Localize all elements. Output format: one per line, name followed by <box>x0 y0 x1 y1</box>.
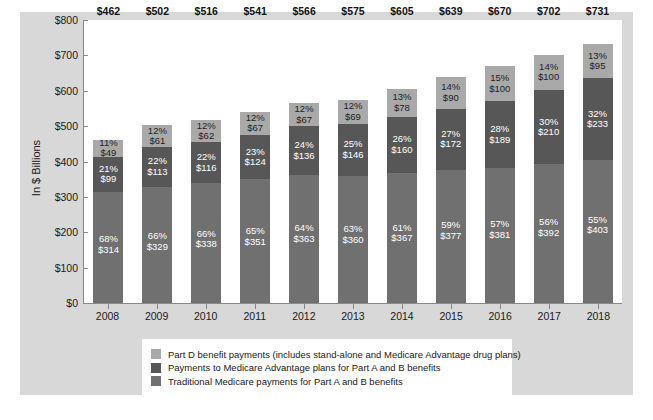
bar-segment-trad[interactable]: 64%$363 <box>289 175 319 303</box>
plot-area: $800$700$600$500$400$300$200$100$0 $4621… <box>83 20 622 304</box>
bar-segment-trad[interactable]: 66%$329 <box>142 187 172 303</box>
bar-group[interactable]: $73113%$9532%$23355%$403 <box>583 20 613 303</box>
segment-value-label: $160 <box>391 145 412 156</box>
segment-value-label: $116 <box>196 163 216 174</box>
x-axis-label: 2008 <box>93 310 123 330</box>
bar-segment-partd[interactable]: 14%$90 <box>436 77 466 109</box>
legend-item-ma[interactable]: Payments to Medicare Advantage plans for… <box>151 362 503 373</box>
y-axis-tick: $500 <box>55 120 84 132</box>
bar-segment-partd[interactable]: 15%$100 <box>485 66 515 101</box>
x-axis-tick <box>206 304 207 309</box>
bar-total-label: $605 <box>390 5 413 17</box>
segment-value-label: $377 <box>440 230 461 241</box>
segment-value-label: $62 <box>198 131 214 142</box>
bar-group[interactable]: $46211%$4921%$9968%$314 <box>93 20 123 303</box>
segment-value-label: $100 <box>538 72 559 83</box>
x-axis-label: 2012 <box>289 310 319 330</box>
segment-value-label: $233 <box>587 119 608 130</box>
bar-segment-ma[interactable]: 23%$124 <box>240 135 270 179</box>
bar-segment-trad[interactable]: 57%$381 <box>485 168 515 303</box>
x-axis-tick <box>304 304 305 309</box>
bar-segment-ma[interactable]: 30%$210 <box>534 90 564 164</box>
bar-segment-ma[interactable]: 27%$172 <box>436 109 466 170</box>
segment-value-label: $95 <box>590 61 606 72</box>
x-axis-label: 2009 <box>142 310 172 330</box>
bar-group[interactable]: $54112%$6723%$12465%$351 <box>240 20 270 303</box>
x-axis-tick <box>255 304 256 309</box>
bar-segment-partd[interactable]: 11%$49 <box>93 140 123 157</box>
bar-segment-partd[interactable]: 13%$78 <box>387 89 417 117</box>
bar-segment-ma[interactable]: 24%$136 <box>289 126 319 174</box>
segment-value-label: $189 <box>489 135 510 146</box>
segment-percent-label: 56% <box>539 216 558 227</box>
bar-segment-ma[interactable]: 22%$116 <box>191 142 221 183</box>
y-axis-tick: $600 <box>55 85 84 97</box>
bar-segment-partd[interactable]: 12%$67 <box>240 112 270 136</box>
x-axis-label: 2016 <box>485 310 515 330</box>
bar-segment-ma[interactable]: 28%$189 <box>485 101 515 168</box>
legend-item-partd[interactable]: Part D benefit payments (includes stand-… <box>151 349 503 360</box>
bar-total-label: $702 <box>537 5 560 17</box>
bar-segment-ma[interactable]: 26%$160 <box>387 117 417 174</box>
segment-value-label: $360 <box>342 234 363 245</box>
y-axis-tick: $700 <box>55 49 84 61</box>
bar-segment-trad[interactable]: 66%$338 <box>191 183 221 303</box>
bar-total-label: $462 <box>97 5 120 17</box>
bar-segment-trad[interactable]: 56%$392 <box>534 164 564 303</box>
bar-group[interactable]: $57512%$6925%$14663%$360 <box>338 20 368 303</box>
legend-label: Traditional Medicare payments for Part A… <box>168 376 403 387</box>
bar-segment-ma[interactable]: 22%$113 <box>142 147 172 187</box>
bar-segment-partd[interactable]: 12%$61 <box>142 125 172 147</box>
x-axis-tick <box>451 304 452 309</box>
segment-percent-label: 63% <box>343 223 362 234</box>
segment-value-label: $172 <box>440 139 461 150</box>
segment-value-label: $99 <box>101 174 117 185</box>
x-axis-label: 2017 <box>534 310 564 330</box>
bar-segment-trad[interactable]: 65%$351 <box>240 179 270 303</box>
bar-segment-ma[interactable]: 21%$99 <box>93 157 123 192</box>
segment-value-label: $69 <box>345 112 361 123</box>
bar-group[interactable]: $70214%$10030%$21056%$392 <box>534 20 564 303</box>
y-axis-tick: $200 <box>55 226 84 238</box>
x-axis-label: 2018 <box>583 310 613 330</box>
segment-percent-label: 66% <box>197 228 216 239</box>
segment-value-label: $338 <box>196 238 217 249</box>
chart-legend: Part D benefit payments (includes stand-… <box>142 339 512 397</box>
bar-segment-partd[interactable]: 13%$95 <box>583 44 613 78</box>
bar-segment-partd[interactable]: 12%$69 <box>338 100 368 124</box>
bar-segment-trad[interactable]: 61%$367 <box>387 173 417 303</box>
segment-value-label: $49 <box>101 148 117 157</box>
x-axis-tick <box>549 304 550 309</box>
bar-segment-trad[interactable]: 59%$377 <box>436 170 466 303</box>
bar-group[interactable]: $50212%$6122%$11366%$329 <box>142 20 172 303</box>
segment-percent-label: 59% <box>441 219 460 230</box>
segment-value-label: $392 <box>538 227 559 238</box>
bar-group[interactable]: $60513%$7826%$16061%$367 <box>387 20 417 303</box>
bar-segment-trad[interactable]: 55%$403 <box>583 160 613 303</box>
segment-value-label: $113 <box>147 167 167 178</box>
x-axis-label: 2010 <box>191 310 221 330</box>
x-axis-label: 2011 <box>240 310 270 330</box>
bar-group[interactable]: $56612%$6724%$13664%$363 <box>289 20 319 303</box>
segment-percent-label: 57% <box>490 218 509 229</box>
segment-value-label: $363 <box>294 233 315 244</box>
segment-value-label: $146 <box>342 150 363 161</box>
bar-segment-ma[interactable]: 25%$146 <box>338 124 368 176</box>
x-axis-tick <box>353 304 354 309</box>
bar-group[interactable]: $51612%$6222%$11666%$338 <box>191 20 221 303</box>
bar-segment-partd[interactable]: 12%$62 <box>191 120 221 142</box>
bar-segment-trad[interactable]: 68%$314 <box>93 192 123 303</box>
bar-segment-ma[interactable]: 32%$233 <box>583 78 613 160</box>
bar-segment-partd[interactable]: 12%$67 <box>289 103 319 127</box>
bar-group[interactable]: $67015%$10028%$18957%$381 <box>485 20 515 303</box>
segment-value-label: $100 <box>489 84 510 95</box>
bar-group[interactable]: $63914%$9027%$17259%$377 <box>436 20 466 303</box>
segment-percent-label: 61% <box>392 222 411 233</box>
bar-segment-partd[interactable]: 14%$100 <box>534 55 564 90</box>
bar-segment-trad[interactable]: 63%$360 <box>338 176 368 303</box>
legend-label: Payments to Medicare Advantage plans for… <box>168 362 441 373</box>
legend-item-trad[interactable]: Traditional Medicare payments for Part A… <box>151 376 503 387</box>
x-axis-tick <box>157 304 158 309</box>
x-axis-tick <box>402 304 403 309</box>
segment-value-label: $329 <box>147 241 168 252</box>
